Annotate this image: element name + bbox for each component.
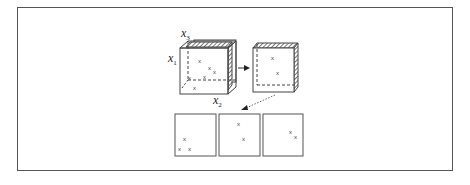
- axis-label-x2: x2: [212, 93, 222, 109]
- point-marker: x: [213, 69, 216, 75]
- point-marker: x: [188, 146, 191, 152]
- dotted-arrow-icon: [241, 95, 275, 110]
- point-marker: x: [178, 146, 181, 152]
- panel-1: [175, 114, 216, 156]
- point-marker: x: [193, 85, 196, 91]
- point-marker: x: [271, 55, 274, 61]
- point-marker: x: [237, 121, 240, 127]
- cube-slicing-diagram: x x x x x x x3 x1 x2 x x x x x x: [0, 0, 470, 185]
- axis-label-x1: x1: [167, 51, 177, 67]
- point-marker: x: [289, 129, 292, 135]
- point-marker: x: [203, 74, 206, 80]
- point-marker: x: [276, 70, 279, 76]
- axis-label-x3: x3: [180, 26, 190, 42]
- point-marker: x: [294, 134, 297, 140]
- extracted-slice: [253, 43, 298, 92]
- point-marker: x: [198, 58, 201, 64]
- point-marker: x: [188, 75, 191, 81]
- panel-3: [263, 114, 303, 156]
- arrow-right-icon: [238, 65, 250, 71]
- point-marker: x: [183, 136, 186, 142]
- point-marker: x: [208, 65, 211, 71]
- point-marker: x: [242, 136, 245, 142]
